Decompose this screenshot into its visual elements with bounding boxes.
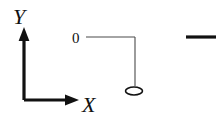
y-axis-label: Y	[13, 4, 28, 29]
zero-value-label: 0	[72, 30, 80, 46]
x-axis-label: X	[81, 92, 97, 117]
y-axis-arrowhead	[19, 27, 30, 41]
diagram-canvas: Y X 0	[0, 0, 222, 124]
node-ellipse	[126, 87, 143, 95]
x-axis-arrowhead	[65, 95, 79, 106]
coordinate-axes-diagram: Y X 0	[0, 0, 222, 124]
